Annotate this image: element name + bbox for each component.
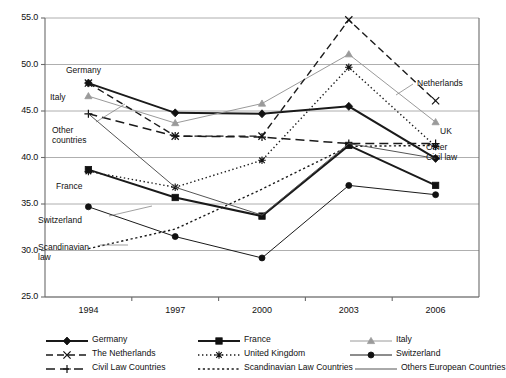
legend-item-france[interactable]: France (196, 332, 348, 346)
legend-row: GermanyFranceItaly (44, 332, 484, 346)
annotation-label: Other Civil law (426, 143, 457, 162)
annotation-label: UK (440, 127, 452, 137)
annotation-label: France (56, 182, 82, 192)
legend-item-civil-law-countries[interactable]: Civil Law Countries (44, 360, 196, 374)
legend-item-label: United Kingdom (242, 348, 305, 358)
diamond-marker (171, 109, 179, 117)
x-marker (432, 97, 439, 104)
leader-line (109, 206, 152, 216)
series-switzerland (85, 182, 438, 261)
y-axis-tick-label: 35.0 (2, 198, 38, 208)
series-the-netherlands (85, 16, 439, 139)
circle-marker (346, 182, 352, 188)
circle-marker (433, 192, 439, 198)
diamond-marker (63, 337, 71, 345)
legend-marker-icon (348, 333, 394, 345)
x-axis-tick-label: 1997 (145, 305, 205, 315)
triangle-marker (258, 100, 265, 106)
asterisk-marker (258, 156, 266, 164)
plus-marker (63, 365, 71, 373)
legend-item-united-kingdom[interactable]: United Kingdom (196, 346, 348, 360)
legend-item-switzerland[interactable]: Switzerland (348, 346, 484, 360)
square-marker (216, 338, 222, 344)
annotation-leader-lines (96, 84, 413, 245)
legend-item-label: Germany (90, 334, 127, 344)
legend-marker-icon (196, 361, 242, 373)
legend-item-label: Others European Countries (399, 362, 506, 372)
series-united-kingdom (85, 63, 440, 191)
annotation-label: Netherlands (417, 79, 463, 89)
x-axis-tick-label: 1994 (58, 305, 118, 315)
x-axis-tick-label: 2003 (319, 305, 379, 315)
y-axis-tick-label: 25.0 (2, 291, 38, 301)
circle-marker (85, 204, 91, 210)
y-axis-tick-label: 55.0 (2, 12, 38, 22)
y-axis-tick-label: 30.0 (2, 245, 38, 255)
series-france (85, 142, 439, 219)
legend-item-germany[interactable]: Germany (44, 332, 196, 346)
square-marker (432, 182, 438, 188)
circle-marker (172, 234, 178, 240)
annotation-label: Other countries (52, 126, 87, 145)
asterisk-marker (215, 351, 223, 359)
legend-item-the-netherlands[interactable]: The Netherlands (44, 346, 196, 360)
square-marker (172, 194, 178, 200)
series-layer (84, 16, 439, 261)
legend-row: The NetherlandsUnited KingdomSwitzerland (44, 346, 484, 360)
y-axis-tick-label: 45.0 (2, 105, 38, 115)
legend-item-label: Civil Law Countries (90, 362, 166, 372)
series-line (88, 185, 435, 258)
legend-row: Civil Law CountriesScandinavian Law Coun… (44, 360, 484, 374)
legend-marker-icon (196, 347, 242, 359)
circle-marker (368, 352, 374, 358)
series-line (88, 114, 435, 215)
asterisk-marker (85, 168, 93, 176)
legend-marker-icon (348, 347, 394, 359)
x-axis-tick-label: 2006 (406, 305, 466, 315)
x-axis-tick-label: 2000 (232, 305, 292, 315)
circle-marker (259, 255, 265, 261)
legend-item-label: The Netherlands (90, 348, 156, 358)
legend-item-scandinavian-law-countries[interactable]: Scandinavian Law Countries (196, 360, 353, 374)
y-axis-tick-label: 40.0 (2, 152, 38, 162)
chart-legend: GermanyFranceItalyThe NetherlandsUnited … (44, 332, 484, 374)
asterisk-marker (345, 63, 353, 71)
triangle-marker (85, 93, 92, 99)
legend-marker-icon (44, 333, 90, 345)
x-tick-marks (132, 297, 392, 301)
leader-line (396, 84, 413, 95)
triangle-marker (345, 51, 352, 57)
legend-marker-icon (44, 361, 90, 373)
plus-marker (258, 133, 266, 141)
legend-marker-icon (196, 333, 242, 345)
series-line (88, 20, 435, 136)
series-line (88, 83, 435, 158)
legend-item-others-european-countries[interactable]: Others European Countries (353, 360, 506, 374)
legend-item-label: France (242, 334, 271, 344)
legend-key (44, 363, 90, 375)
diamond-marker (345, 102, 353, 110)
legend-marker-icon (44, 347, 90, 359)
annotation-label: Germany (66, 66, 101, 76)
legend-item-label: Scandinavian Law Countries (242, 362, 353, 372)
annotation-label: Italy (50, 93, 66, 103)
legend-item-italy[interactable]: Italy (348, 332, 484, 346)
legend-marker-icon (353, 361, 399, 373)
annotation-label: Scandinavian law (38, 243, 89, 262)
triangle-marker (432, 119, 439, 125)
legend-key (353, 363, 399, 375)
series-others-european-countries (88, 114, 435, 215)
legend-item-label: Switzerland (394, 348, 440, 358)
x-marker (345, 16, 352, 23)
y-axis-tick-label: 50.0 (2, 59, 38, 69)
legend-item-label: Italy (394, 334, 412, 344)
legend-key (196, 363, 242, 375)
annotation-label: Switzerland (38, 216, 82, 226)
